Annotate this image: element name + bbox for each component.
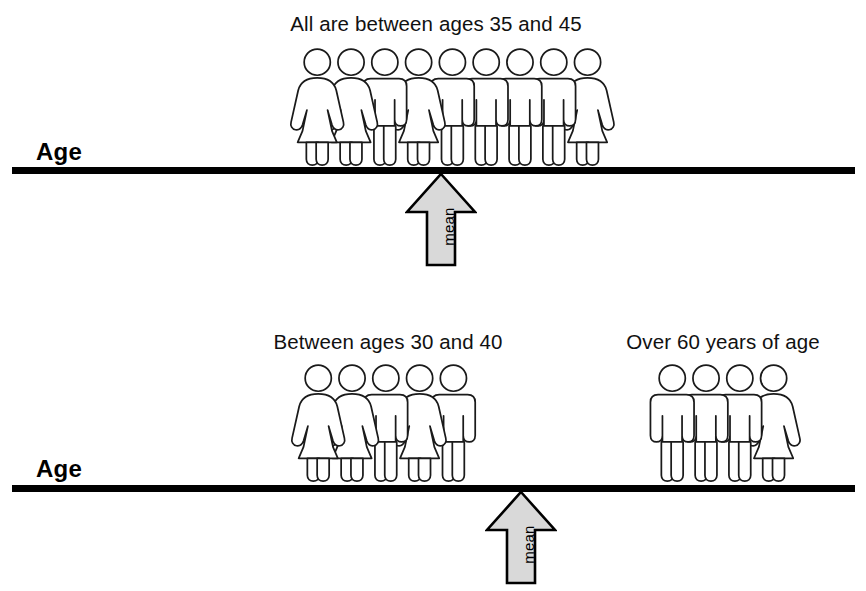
people-group-bottom-left	[291, 364, 481, 481]
mean-label-top: mean	[440, 197, 457, 257]
group-caption-bottom-left: Between ages 30 and 40	[233, 330, 543, 354]
person-male	[650, 365, 694, 481]
diagram-canvas: All are between ages 35 and 45 Age mean …	[0, 0, 866, 591]
people-group-bottom-right	[645, 364, 801, 481]
person-female	[292, 365, 345, 481]
axis-line-bottom	[12, 485, 855, 492]
person-female	[291, 49, 344, 165]
group-caption-top-all: All are between ages 35 and 45	[271, 12, 601, 36]
group-caption-bottom-right: Over 60 years of age	[598, 330, 848, 354]
people-group-top-all	[290, 48, 615, 165]
mean-label-bottom: mean	[520, 515, 537, 575]
axis-label-top: Age	[36, 138, 82, 166]
axis-label-bottom: Age	[36, 455, 82, 483]
